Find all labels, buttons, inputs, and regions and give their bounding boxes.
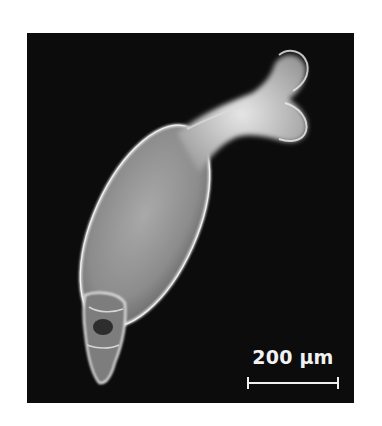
specimen-head [177, 55, 307, 173]
scale-bar-tick-left [247, 377, 249, 389]
specimen-tail [84, 293, 126, 384]
micrograph-image: 200 µm [27, 33, 354, 403]
scale-bar [247, 377, 339, 389]
scale-bar-label: 200 µm [227, 346, 354, 368]
scale-bar-tick-right [337, 377, 339, 389]
scale-bar-line [247, 382, 339, 384]
